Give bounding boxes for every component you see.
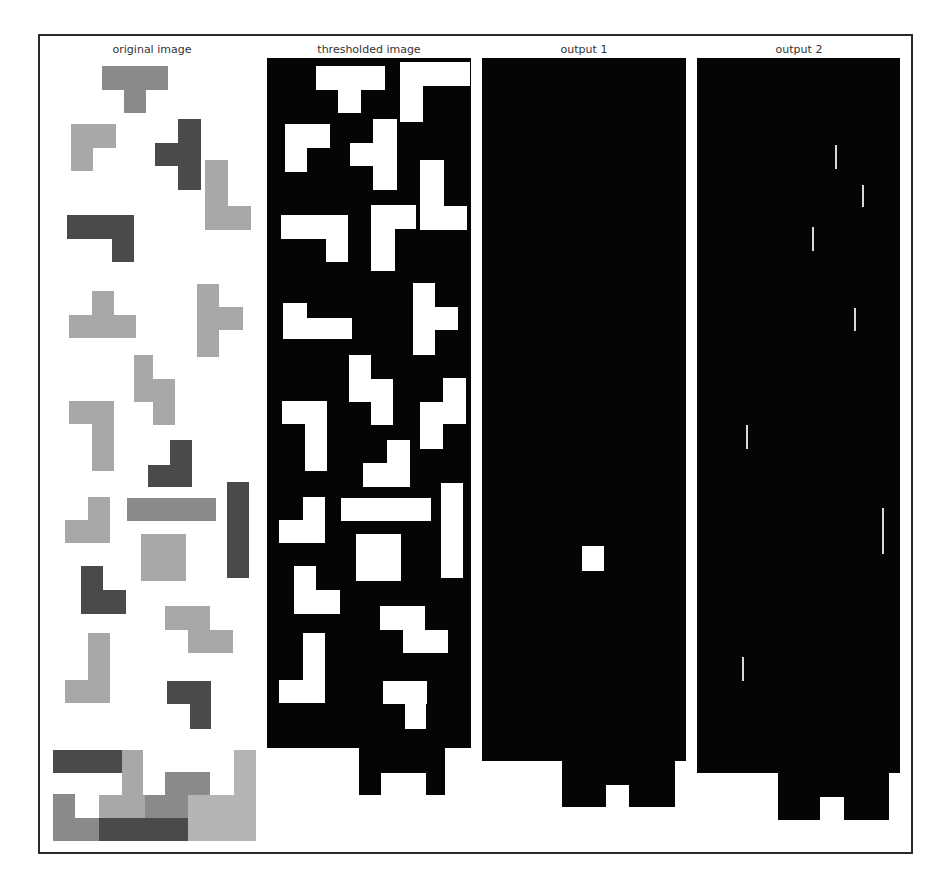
- binary-mask-background: [697, 58, 900, 773]
- detected-edge-line: [854, 308, 856, 331]
- detected-edge-line: [812, 227, 814, 251]
- detected-edge-line: [746, 425, 748, 449]
- detected-edge-line: [835, 145, 837, 169]
- detected-edge-line: [742, 657, 744, 681]
- detected-edge-line: [882, 508, 884, 554]
- binary-mask-notch: [820, 797, 844, 820]
- output-2-panel: [0, 0, 944, 888]
- detected-edge-line: [862, 185, 864, 207]
